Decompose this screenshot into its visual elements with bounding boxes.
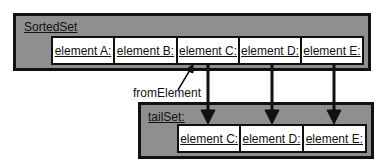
from-element-label: fromElement <box>133 86 201 100</box>
arrow-e-head-icon <box>327 110 341 124</box>
from-element-pointer-head-icon <box>186 64 193 73</box>
connector-arrows <box>0 0 390 163</box>
arrow-d-head-icon <box>265 110 279 124</box>
arrow-c-head-icon <box>201 110 215 124</box>
